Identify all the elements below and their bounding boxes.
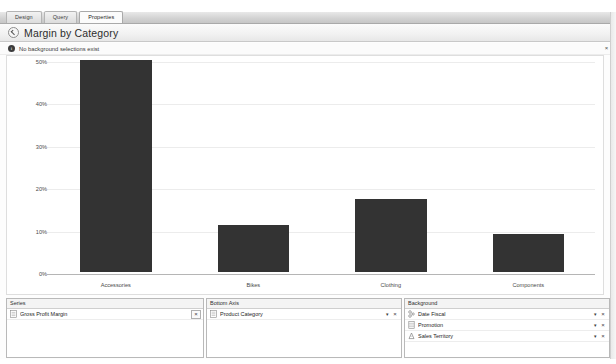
x-axis-tick-label: Accessories [101,282,131,288]
remove-field-icon[interactable]: × [599,333,607,339]
notification-bar: i No background selections exist × [0,43,616,55]
tab-design[interactable]: Design [6,11,42,23]
measure-icon [10,310,17,318]
chart-canvas[interactable]: 0%10%20%30%40%50%AccessoriesBikesClothin… [6,55,604,295]
right-edge-gutter [610,12,616,364]
y-axis-tick-label: 0% [21,271,47,277]
field-wells: Series Gross Profit Margin× Bottom Axis … [6,298,610,358]
info-icon: i [8,45,15,52]
x-axis-line [47,274,595,275]
date-hierarchy-icon [408,310,415,318]
close-icon[interactable]: × [603,45,610,52]
panel-background-header: Background [405,299,609,309]
page-header: Margin by Category [0,24,616,42]
field-label: Promotion [418,322,592,328]
y-axis-tick-label: 50% [21,59,47,65]
bar[interactable] [218,225,290,272]
notification-message: No background selections exist [19,46,603,52]
x-axis-tick-label: Bikes [246,282,260,288]
view-tab-strip: Design Query Properties [0,12,616,24]
remove-field-icon[interactable]: × [599,311,607,317]
x-axis-tick-label: Clothing [380,282,401,288]
chevron-down-icon[interactable]: ▾ [592,333,599,339]
field-label: Gross Profit Margin [20,311,184,317]
remove-field-icon[interactable]: × [391,311,399,317]
field-label: Date Fiscal [418,311,592,317]
panel-background: Background Date Fiscal▾×Promotion▾×Sales… [404,298,610,358]
bar[interactable] [355,199,427,272]
panel-series: Series Gross Profit Margin× [6,298,204,358]
table-icon [408,321,415,329]
panel-bottom-axis-header: Bottom Axis [207,299,401,309]
plot-area [47,62,595,272]
hierarchy-icon [210,310,217,318]
y-axis-tick-label: 10% [21,229,47,235]
field-row[interactable]: Promotion▾× [405,320,609,331]
panel-bottom-axis: Bottom Axis Product Category▾× [206,298,402,358]
page-title: Margin by Category [24,27,118,39]
remove-field-icon[interactable]: × [599,322,607,328]
back-arrow-circle-icon[interactable] [8,27,19,38]
chevron-down-icon[interactable]: ▾ [384,311,391,317]
tab-query[interactable]: Query [44,11,77,23]
geo-hierarchy-icon [408,332,415,340]
bar-chart: 0%10%20%30%40%50%AccessoriesBikesClothin… [7,56,603,294]
field-row[interactable]: Sales Territory▾× [405,331,609,342]
panel-bottom-axis-rows: Product Category▾× [207,309,401,357]
panel-series-rows: Gross Profit Margin× [7,309,203,357]
panel-background-rows: Date Fiscal▾×Promotion▾×Sales Territory▾… [405,309,609,357]
y-axis-tick-label: 40% [21,101,47,107]
field-row[interactable]: Product Category▾× [207,309,401,320]
field-row[interactable]: Date Fiscal▾× [405,309,609,320]
panel-series-header: Series [7,299,203,309]
y-axis-tick-label: 30% [21,144,47,150]
chevron-down-icon[interactable]: ▾ [592,311,599,317]
y-axis-tick-label: 20% [21,186,47,192]
chevron-down-icon[interactable]: ▾ [592,322,599,328]
window-bottom-strip [0,359,616,364]
x-axis-tick-label: Components [512,282,544,288]
tab-properties[interactable]: Properties [79,11,123,23]
bar[interactable] [80,60,152,272]
field-row[interactable]: Gross Profit Margin× [7,309,203,320]
remove-field-icon[interactable]: × [191,310,201,319]
field-label: Product Category [220,311,384,317]
field-label: Sales Territory [418,333,592,339]
bar[interactable] [493,234,565,272]
report-designer-window: Design Query Properties Margin by Catego… [0,0,616,364]
